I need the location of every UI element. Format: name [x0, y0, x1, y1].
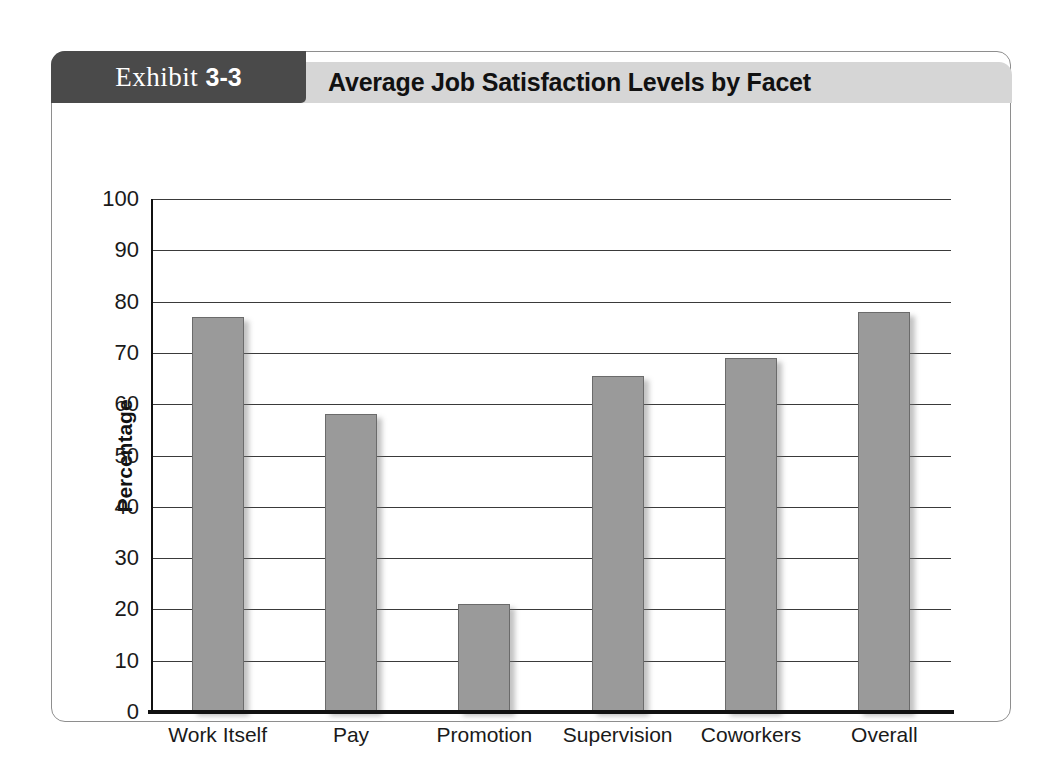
gridline	[151, 456, 951, 457]
y-axis-tick-label: 90	[79, 237, 139, 263]
y-axis-tick-label: 70	[79, 340, 139, 366]
exhibit-tab-number: 3-3	[206, 63, 242, 91]
exhibit-card: Exhibit 3-3 Average Job Satisfaction Lev…	[51, 51, 1011, 722]
x-axis-tick-label: Overall	[851, 723, 918, 747]
y-axis-line	[151, 199, 153, 712]
y-axis-tick-label: 30	[79, 545, 139, 571]
x-axis-tick-label: Work Itself	[168, 723, 267, 747]
gridline	[151, 404, 951, 405]
y-axis-tick-label: 60	[79, 391, 139, 417]
bar	[192, 317, 244, 712]
y-axis-tick-label: 20	[79, 596, 139, 622]
y-axis-tick-label: 100	[79, 186, 139, 212]
y-axis-tick-label: 0	[79, 699, 139, 725]
chart-area: Percentage 0102030405060708090100 Work I…	[52, 103, 1012, 723]
y-axis-tick-label: 50	[79, 443, 139, 469]
exhibit-title: Average Job Satisfaction Levels by Facet	[328, 62, 811, 103]
gridline	[151, 609, 951, 610]
x-axis-tick-label: Coworkers	[701, 723, 801, 747]
x-axis-line	[148, 710, 954, 714]
bar	[725, 358, 777, 712]
gridline	[151, 302, 951, 303]
y-axis-tick-label: 80	[79, 289, 139, 315]
x-axis-tick-label: Promotion	[436, 723, 532, 747]
y-axis-tick-label: 10	[79, 648, 139, 674]
bar	[592, 376, 644, 712]
y-axis-tick-label: 40	[79, 494, 139, 520]
gridline	[151, 250, 951, 251]
bar	[458, 604, 510, 712]
bar	[858, 312, 910, 712]
gridline	[151, 661, 951, 662]
gridline	[151, 199, 951, 200]
exhibit-tab-label: Exhibit 3-3	[115, 62, 241, 93]
gridline	[151, 507, 951, 508]
x-axis-tick-label: Supervision	[563, 723, 673, 747]
plot-region: Percentage 0102030405060708090100 Work I…	[151, 199, 951, 713]
x-axis-tick-label: Pay	[333, 723, 369, 747]
gridline	[151, 558, 951, 559]
gridline	[151, 353, 951, 354]
exhibit-number-tab: Exhibit 3-3	[51, 51, 306, 103]
exhibit-tab-word: Exhibit	[115, 62, 198, 92]
exhibit-header: Exhibit 3-3 Average Job Satisfaction Lev…	[52, 52, 1012, 103]
bar	[325, 414, 377, 712]
